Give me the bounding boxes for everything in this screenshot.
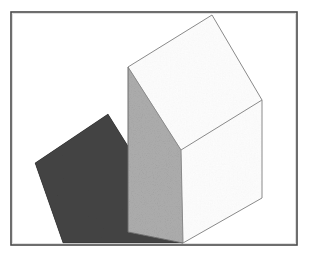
cube-illustration: Shaded cube with cast shadow Line drawin… bbox=[0, 0, 318, 263]
figure-root: Shaded cube with cast shadow Line drawin… bbox=[0, 0, 318, 263]
